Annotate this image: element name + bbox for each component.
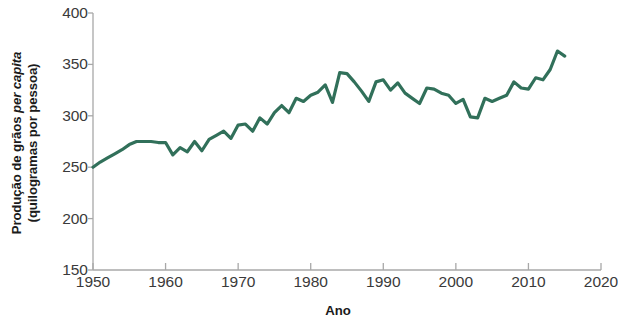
x-axis-tick-labels: 19501960197019801990200020102020 bbox=[0, 274, 616, 300]
y-axis-title-line1-plain: Produção de grãos bbox=[9, 113, 24, 234]
x-axis-tick-label: 1980 bbox=[293, 274, 327, 290]
x-axis-tick-label: 1970 bbox=[221, 274, 255, 290]
y-axis-tick-label: 400 bbox=[44, 5, 88, 21]
x-axis-title: Ano bbox=[0, 303, 616, 318]
x-axis-tick-label: 2020 bbox=[584, 274, 618, 290]
y-axis-title-line1: Produção de grãos per capita bbox=[9, 51, 24, 234]
x-axis-tick-label: 1960 bbox=[148, 274, 182, 290]
x-axis-tick-label: 2000 bbox=[439, 274, 473, 290]
x-axis-title-text: Ano bbox=[325, 303, 351, 318]
data-series bbox=[93, 51, 565, 167]
y-axis-tick-label: 200 bbox=[44, 211, 88, 227]
y-axis-tick-label: 350 bbox=[44, 56, 88, 72]
y-axis-tick-label: 250 bbox=[44, 159, 88, 175]
series-line bbox=[93, 51, 565, 167]
y-axis-tick-labels: 150200250300350400 bbox=[36, 0, 88, 285]
x-axis-tick-label: 1950 bbox=[76, 274, 110, 290]
x-axis-tick-label: 1990 bbox=[366, 274, 400, 290]
x-axis-tick-label: 2010 bbox=[511, 274, 545, 290]
y-axis-title-line1-italic: per capita bbox=[9, 51, 24, 112]
y-axis-tick-label: 300 bbox=[44, 108, 88, 124]
